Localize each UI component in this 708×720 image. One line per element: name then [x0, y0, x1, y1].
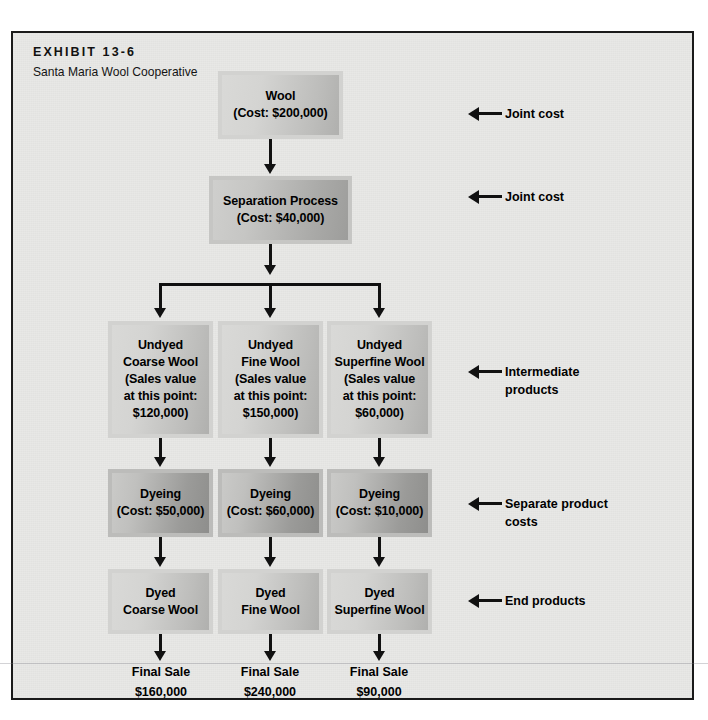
node-dyeing-fine-detail: (Cost: $60,000) — [227, 503, 314, 520]
node-dyed-superfine-wool[interactable]: Dyed Superfine Wool — [327, 569, 432, 634]
annotation-joint-cost-separation-text: Joint cost — [505, 188, 564, 206]
final-sale-fine-label: Final Sale — [218, 662, 322, 682]
node-undyed-fine-line2: Fine Wool — [241, 354, 300, 371]
arrowhead-dyed-to-final-superfine — [373, 651, 385, 661]
node-dyeing-superfine-title: Dyeing — [359, 486, 400, 503]
node-separation-detail: (Cost: $40,000) — [237, 210, 324, 227]
arrow-left-icon — [468, 497, 502, 511]
node-undyed-coarse-line1: Undyed — [138, 337, 183, 354]
arrowhead-branch-fine — [264, 308, 276, 318]
scan-artifact-line — [0, 663, 708, 664]
exhibit-frame: EXHIBIT 13-6 Santa Maria Wool Cooperativ… — [11, 31, 694, 700]
node-dyeing-superfine-inner: Dyeing (Cost: $10,000) — [331, 473, 428, 533]
branch-drop-superfine — [378, 283, 381, 311]
node-wool-detail: (Cost: $200,000) — [233, 105, 327, 122]
exhibit-number-label: EXHIBIT 13-6 — [33, 45, 136, 59]
exhibit-subtitle: Santa Maria Wool Cooperative — [33, 64, 197, 79]
node-undyed-fine-line5: $150,000) — [243, 405, 298, 422]
annotation-intermediate-line2: products — [505, 381, 579, 399]
node-wool[interactable]: Wool (Cost: $200,000) — [218, 71, 343, 139]
annotation-joint-cost-wool: Joint cost — [468, 105, 564, 123]
node-undyed-superfine-wool[interactable]: Undyed Superfine Wool (Sales value at th… — [327, 321, 432, 438]
node-dyed-coarse-line1: Dyed — [145, 585, 175, 602]
node-dyed-fine-line1: Dyed — [255, 585, 285, 602]
node-dyeing-coarse[interactable]: Dyeing (Cost: $50,000) — [108, 469, 213, 537]
branch-drop-coarse — [159, 283, 162, 311]
annotation-intermediate-products: Intermediate products — [468, 363, 579, 399]
node-dyed-fine-line2: Fine Wool — [241, 602, 300, 619]
node-dyeing-fine-inner: Dyeing (Cost: $60,000) — [222, 473, 319, 533]
node-undyed-coarse-line5: $120,000) — [133, 405, 188, 422]
node-undyed-fine-line3: (Sales value — [235, 371, 306, 388]
arrowhead-branch-superfine — [373, 308, 385, 318]
annotation-intermediate-products-text: Intermediate products — [505, 363, 579, 399]
arrowhead-dyeing-to-dyed-fine — [264, 557, 276, 567]
node-separation-inner: Separation Process (Cost: $40,000) — [213, 180, 348, 240]
node-dyeing-superfine[interactable]: Dyeing (Cost: $10,000) — [327, 469, 432, 537]
arrowhead-coarse-to-dyeing — [154, 457, 166, 467]
node-dyeing-coarse-inner: Dyeing (Cost: $50,000) — [112, 473, 209, 533]
arrow-left-icon — [468, 107, 502, 121]
final-sale-superfine-amount: $90,000 — [327, 682, 431, 702]
final-sale-fine-amount: $240,000 — [218, 682, 322, 702]
final-sale-coarse: Final Sale $160,000 — [109, 662, 213, 702]
node-undyed-superfine-line3: (Sales value — [344, 371, 415, 388]
arrow-left-icon — [468, 190, 502, 204]
node-undyed-coarse-line3: (Sales value — [125, 371, 196, 388]
arrow-left-icon — [468, 594, 502, 608]
node-undyed-coarse-line4: at this point: — [124, 388, 198, 405]
arrowhead-dyeing-to-dyed-superfine — [373, 557, 385, 567]
branch-drop-fine — [269, 283, 272, 311]
arrowhead-superfine-to-dyeing — [373, 457, 385, 467]
node-undyed-superfine-inner: Undyed Superfine Wool (Sales value at th… — [331, 325, 428, 434]
exhibit-screenshot: EXHIBIT 13-6 Santa Maria Wool Cooperativ… — [0, 0, 708, 720]
node-undyed-superfine-line4: at this point: — [343, 388, 417, 405]
arrowhead-separation-down — [264, 265, 276, 275]
node-wool-title: Wool — [266, 88, 296, 105]
arrowhead-dyed-to-final-coarse — [154, 651, 166, 661]
node-undyed-coarse-wool[interactable]: Undyed Coarse Wool (Sales value at this … — [108, 321, 213, 438]
final-sale-coarse-amount: $160,000 — [109, 682, 213, 702]
node-dyed-coarse-line2: Coarse Wool — [123, 602, 198, 619]
annotation-end-products-text: End products — [505, 592, 586, 610]
annotation-separate-line1: Separate product — [505, 495, 608, 513]
arrowhead-wool-to-separation — [264, 164, 276, 174]
node-undyed-superfine-line2: Superfine Wool — [334, 354, 424, 371]
node-undyed-fine-wool[interactable]: Undyed Fine Wool (Sales value at this po… — [218, 321, 323, 438]
annotation-separate-line2: costs — [505, 513, 608, 531]
node-dyed-superfine-line1: Dyed — [364, 585, 394, 602]
node-dyed-fine-inner: Dyed Fine Wool — [222, 573, 319, 630]
node-undyed-superfine-line5: $60,000) — [355, 405, 404, 422]
node-dyeing-superfine-detail: (Cost: $10,000) — [336, 503, 423, 520]
arrowhead-fine-to-dyeing — [264, 457, 276, 467]
annotation-intermediate-line1: Intermediate — [505, 363, 579, 381]
node-dyed-superfine-line2: Superfine Wool — [334, 602, 424, 619]
final-sale-superfine-label: Final Sale — [327, 662, 431, 682]
arrowhead-dyed-to-final-fine — [264, 651, 276, 661]
annotation-separate-product-costs: Separate product costs — [468, 495, 608, 531]
node-wool-inner: Wool (Cost: $200,000) — [222, 75, 339, 135]
annotation-joint-cost-separation: Joint cost — [468, 188, 564, 206]
node-dyed-coarse-wool[interactable]: Dyed Coarse Wool — [108, 569, 213, 634]
node-undyed-superfine-line1: Undyed — [357, 337, 402, 354]
node-dyeing-coarse-title: Dyeing — [140, 486, 181, 503]
node-dyeing-fine-title: Dyeing — [250, 486, 291, 503]
annotation-end-products: End products — [468, 592, 586, 610]
annotation-joint-cost-wool-text: Joint cost — [505, 105, 564, 123]
node-undyed-fine-line1: Undyed — [248, 337, 293, 354]
arrowhead-branch-coarse — [154, 308, 166, 318]
node-dyeing-coarse-detail: (Cost: $50,000) — [117, 503, 204, 520]
node-undyed-fine-inner: Undyed Fine Wool (Sales value at this po… — [222, 325, 319, 434]
annotation-separate-product-costs-text: Separate product costs — [505, 495, 608, 531]
arrow-left-icon — [468, 365, 502, 379]
final-sale-coarse-label: Final Sale — [109, 662, 213, 682]
node-dyeing-fine[interactable]: Dyeing (Cost: $60,000) — [218, 469, 323, 537]
node-dyed-coarse-inner: Dyed Coarse Wool — [112, 573, 209, 630]
final-sale-fine: Final Sale $240,000 — [218, 662, 322, 702]
node-separation-title: Separation Process — [223, 193, 338, 210]
node-undyed-coarse-inner: Undyed Coarse Wool (Sales value at this … — [112, 325, 209, 434]
node-undyed-fine-line4: at this point: — [234, 388, 308, 405]
node-separation-process[interactable]: Separation Process (Cost: $40,000) — [209, 176, 352, 244]
node-undyed-coarse-line2: Coarse Wool — [123, 354, 198, 371]
node-dyed-fine-wool[interactable]: Dyed Fine Wool — [218, 569, 323, 634]
